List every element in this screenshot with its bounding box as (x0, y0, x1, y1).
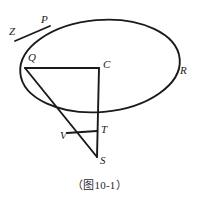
point-label-V: V (60, 130, 67, 141)
point-label-T: T (101, 124, 107, 135)
point-label-R: R (180, 65, 187, 76)
point-label-S: S (100, 155, 106, 166)
point-label-Z: Z (9, 26, 15, 37)
tangent-line-ZP (15, 26, 50, 41)
point-label-C: C (103, 59, 110, 70)
point-label-Q: Q (28, 52, 36, 63)
segment-CS (97, 68, 99, 157)
point-label-P: P (41, 14, 48, 25)
geometry-figure: P Z Q C R V T S （图10-1） (0, 0, 199, 205)
figure-drawing-canvas (0, 0, 199, 205)
segment-VT (67, 131, 97, 133)
figure-caption: （图10-1） (0, 176, 199, 192)
